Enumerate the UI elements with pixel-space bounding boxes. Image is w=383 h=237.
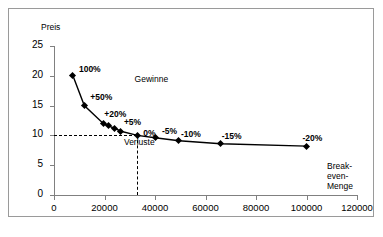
breakeven-caption-line-2: even- <box>327 171 353 181</box>
point-label-minus20: -20% <box>303 134 323 143</box>
chart-figure: Preis 0510152025 02000040000600008000010… <box>0 0 383 237</box>
breakeven-caption-line-1: Break- <box>327 161 353 171</box>
x-tick-label-40000: 40000 <box>142 203 168 213</box>
y-tick-label-20: 20 <box>17 70 43 80</box>
point-label-20: +20% <box>104 110 126 119</box>
x-tick-label-80000: 80000 <box>243 203 269 213</box>
x-tick-20000 <box>105 196 106 200</box>
y-tick-label-10: 10 <box>17 129 43 139</box>
plot-area: 100%+50%+20%+5%0%-5%-10%-15%-20% <box>54 46 357 195</box>
x-tick-60000 <box>206 196 207 200</box>
breakeven-caption: Break- even- Menge <box>327 161 353 191</box>
point-label-minus15: -15% <box>222 132 242 141</box>
y-tick-label-5: 5 <box>17 159 43 169</box>
x-tick-label-60000: 60000 <box>192 203 218 213</box>
x-tick-120000 <box>357 196 358 200</box>
point-label-minus10: -10% <box>181 130 201 139</box>
x-tick-label-100000: 100000 <box>291 203 323 213</box>
point-label-50: +50% <box>90 93 112 102</box>
y-tick-label-0: 0 <box>17 189 43 199</box>
point-label-minus5: -5% <box>162 127 177 136</box>
x-tick-label-20000: 20000 <box>91 203 117 213</box>
x-tick-label-120000: 120000 <box>341 203 373 213</box>
chart-outer-frame: Preis 0510152025 02000040000600008000010… <box>8 8 374 217</box>
x-tick-80000 <box>256 196 257 200</box>
point-label-5: +5% <box>124 118 141 127</box>
y-axis-title: Preis <box>41 23 60 32</box>
y-tick-label-25: 25 <box>17 40 43 50</box>
y-tick-label-15: 15 <box>17 100 43 110</box>
x-tick-100000 <box>307 196 308 200</box>
region-label-gewinne: Gewinne <box>135 75 169 84</box>
region-label-verluste: Verluste <box>124 138 155 147</box>
breakeven-caption-line-3: Menge <box>327 181 353 191</box>
x-tick-label-0: 0 <box>51 203 56 213</box>
x-tick-0 <box>54 196 55 200</box>
x-tick-40000 <box>155 196 156 200</box>
point-label-100: 100% <box>79 65 101 74</box>
